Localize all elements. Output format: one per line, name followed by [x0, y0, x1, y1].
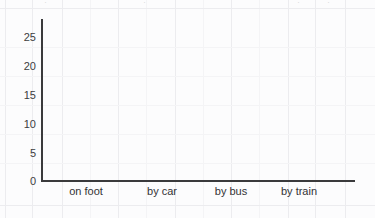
y-axis-tick-label: 15 — [8, 90, 36, 101]
x-axis-tick-label-by-car: by car — [132, 186, 192, 197]
y-axis-tick-label: 5 — [8, 148, 36, 159]
plot-area — [43, 19, 355, 180]
y-axis-tick-label: 10 — [8, 119, 36, 130]
y-axis-tick-label: 0 — [8, 176, 36, 187]
x-axis-tick-label-by-train: by train — [268, 186, 330, 197]
x-axis-tick-label-on-foot: on foot — [56, 186, 116, 197]
bar-chart: 25 20 15 10 5 0 on foot by car by bus by… — [0, 0, 375, 218]
y-axis-tick-label: 25 — [8, 32, 36, 43]
x-axis-line — [41, 180, 355, 182]
worksheet-canvas: · · · · 25 20 15 10 — [0, 0, 375, 218]
y-axis-tick-label: 20 — [8, 61, 36, 72]
x-axis-tick-label-by-bus: by bus — [201, 186, 261, 197]
